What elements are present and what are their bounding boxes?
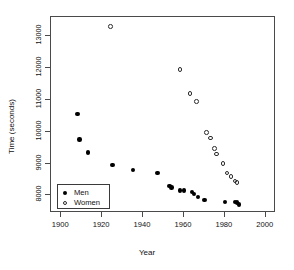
y-tick xyxy=(45,35,50,36)
legend-label-men: Men xyxy=(74,188,89,197)
y-axis-title-label: Time (seconds) xyxy=(7,90,16,164)
y-tick-label: 13000 xyxy=(34,18,43,52)
x-axis-title-label: Year xyxy=(139,248,155,257)
y-tick xyxy=(45,67,50,68)
data-point-men xyxy=(131,168,135,172)
x-tick-label: 1980 xyxy=(215,220,232,229)
data-point-women xyxy=(212,146,217,151)
data-point-men xyxy=(155,171,159,175)
data-point-men xyxy=(182,188,186,192)
y-axis-title: Time (seconds) xyxy=(4,92,16,162)
data-point-women xyxy=(208,136,213,141)
x-axis-title: Year xyxy=(0,248,294,257)
legend-label-women: Women xyxy=(74,198,100,207)
x-tick xyxy=(183,212,184,217)
data-point-men xyxy=(110,163,114,167)
x-tick-label: 1960 xyxy=(175,220,192,229)
data-point-men xyxy=(75,112,79,116)
data-point-men xyxy=(196,195,200,199)
x-tick xyxy=(101,212,102,217)
data-point-men xyxy=(77,137,81,141)
legend-item-women: Women xyxy=(58,198,109,209)
x-tick xyxy=(60,212,61,217)
data-point-men xyxy=(237,202,241,206)
data-point-women xyxy=(178,67,183,72)
data-point-women xyxy=(108,24,113,29)
data-point-women xyxy=(214,152,219,157)
data-point-men xyxy=(86,150,90,154)
x-tick-label: 1940 xyxy=(134,220,151,229)
data-point-women xyxy=(229,174,234,179)
y-tick xyxy=(45,163,50,164)
data-point-women xyxy=(194,99,199,104)
x-tick xyxy=(142,212,143,217)
x-tick xyxy=(265,212,266,217)
data-point-women xyxy=(204,130,209,135)
data-point-women xyxy=(221,161,226,166)
y-tick-label: 12000 xyxy=(34,49,43,83)
legend-marker-women-icon xyxy=(63,201,67,205)
data-point-women xyxy=(188,91,193,96)
plot-area xyxy=(51,17,274,211)
x-tick xyxy=(224,212,225,217)
scatter-plot-figure: 8000900010000110001200013000 19001920194… xyxy=(0,0,294,270)
legend-marker-men-icon xyxy=(63,191,67,195)
x-tick-label: 1920 xyxy=(93,220,110,229)
legend: Men Women xyxy=(57,184,110,209)
y-tick xyxy=(45,194,50,195)
y-tick-label: 11000 xyxy=(34,81,43,115)
data-point-men xyxy=(223,200,227,204)
data-point-men xyxy=(202,198,206,202)
y-tick-label: 9000 xyxy=(34,145,43,179)
y-tick xyxy=(45,99,50,100)
y-tick xyxy=(45,131,50,132)
data-point-men xyxy=(169,185,173,189)
plot-frame xyxy=(50,16,275,212)
x-tick-label: 2000 xyxy=(256,220,273,229)
data-point-women xyxy=(235,180,240,185)
y-tick-label: 10000 xyxy=(34,113,43,147)
y-tick-label: 8000 xyxy=(34,177,43,211)
x-tick-label: 1900 xyxy=(52,220,69,229)
